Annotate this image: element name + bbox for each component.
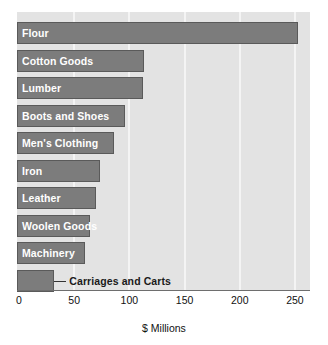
bar-row: Cotton Goods [17,50,310,72]
bar-row: Men's Clothing [17,132,310,154]
bar-row: Lumber [17,77,310,99]
bars-layer: FlourCotton GoodsLumberBoots and ShoesMe… [17,12,310,290]
bar-label: Cotton Goods [22,50,93,72]
bar-label: Boots and Shoes [22,105,109,127]
leader-line [54,281,66,282]
bar[interactable] [17,22,298,44]
bar-label: Machinery [22,242,75,264]
bar-label: Flour [22,22,49,44]
x-axis-line [17,290,310,291]
x-tick-label: 250 [286,294,304,306]
bar-row: Flour [17,22,310,44]
bar-row: Iron [17,160,310,182]
bar-label: Lumber [22,77,61,99]
x-tick-label: 150 [176,294,194,306]
bar-chart: FlourCotton GoodsLumberBoots and ShoesMe… [0,0,328,345]
x-tick-label: 100 [121,294,139,306]
x-axis-title: $ Millions [0,322,328,334]
bar-row: Carriages and Carts [17,270,310,292]
bar-label: Men's Clothing [22,132,98,154]
bar-label: Iron [22,160,42,182]
x-tick-label: 200 [231,294,249,306]
x-tick-label: 50 [68,294,80,306]
bar-label: Woolen Goods [22,215,97,237]
bar[interactable] [17,270,54,292]
bar-row: Machinery [17,242,310,264]
bar-row: Boots and Shoes [17,105,310,127]
bar-row: Woolen Goods [17,215,310,237]
bar-label: Carriages and Carts [69,270,171,292]
bar-label: Leather [22,187,61,209]
x-tick-label: 0 [16,294,22,306]
bar-row: Leather [17,187,310,209]
